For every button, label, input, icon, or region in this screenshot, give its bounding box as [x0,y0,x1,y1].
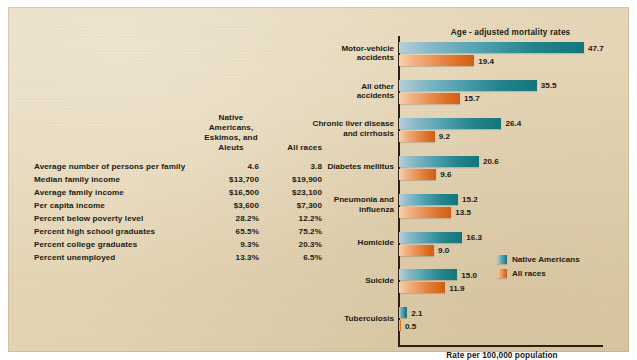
table-row: Per capita income$3,600$7,300 [34,200,322,213]
bar-value-label: 20.6 [483,156,499,167]
chart-bar-row: 13.5 [399,207,609,218]
legend-item-native-americans: Native Americans [497,255,580,264]
legend-swatch-native-americans [497,255,507,264]
chart-category-label: Suicide [304,276,394,286]
legend-label-native-americans: Native Americans [512,255,580,264]
bar-value-label: 13.5 [455,207,471,218]
bar-native-americans [399,307,407,318]
bar-value-label: 15.2 [462,194,478,205]
chart-category-label: Motor-vehicleaccidents [304,44,394,64]
chart-category-label: Pneumonia andinfluenza [304,195,394,215]
table-cell-native-americans: $13,700 [196,174,266,187]
chart-bar-row: 0.5 [399,320,609,331]
chart-category-label: Diabetes mellitus [304,162,394,172]
table-cell-native-americans: 65.5% [196,226,266,239]
table-cell-measure: Average number of persons per family [34,161,196,174]
table-row: Percent unemployed13.3%6.5% [34,252,322,265]
table-cell-native-americans: $16,500 [196,187,266,200]
figure-panel: Native Americans, Eskimos, and Aleuts Al… [8,7,629,352]
bar-value-label: 9.2 [439,131,450,142]
column-header-native-line2: Eskimos, and Aleuts [204,133,257,152]
chart-bar-row: 26.4 [399,118,609,129]
table-cell-measure: Percent unemployed [34,252,196,265]
table-cell-native-americans: 4.6 [196,161,266,174]
chart-bar-row: 9.2 [399,131,609,142]
bar-value-label: 19.4 [478,56,494,67]
table-cell-measure: Median family income [34,174,196,187]
stats-table-head: Native Americans, Eskimos, and Aleuts Al… [34,113,322,161]
mortality-bar-chart: Age - adjusted mortality rates Motor-veh… [304,23,626,353]
table-cell-native-americans: $3,600 [196,200,266,213]
chart-bar-row: 15.7 [399,93,609,104]
table-row: Average family income$16,500$23,100 [34,187,322,200]
table-cell-native-americans: 13.3% [196,252,266,265]
legend-label-all-races: All races [512,269,546,278]
bar-value-label: 15.7 [464,93,480,104]
chart-title: Age - adjusted mortality rates [408,28,613,37]
chart-bar-row: 11.9 [399,282,609,293]
bar-value-label: 15.0 [461,270,477,281]
bar-all-races [399,282,445,293]
bar-native-americans [399,118,501,129]
chart-category-label: Homicide [304,238,394,248]
bar-all-races [399,55,474,66]
chart-bar-row: 20.6 [399,156,609,167]
chart-bar-row: 9.6 [399,169,609,180]
x-axis-line [398,345,603,347]
table-cell-native-americans: 28.2% [196,213,266,226]
chart-bar-row: 15.2 [399,194,609,205]
socioeconomic-comparison-table: Native Americans, Eskimos, and Aleuts Al… [34,113,322,264]
bar-value-label: 11.9 [449,283,464,294]
chart-bar-row: 47.7 [399,42,609,53]
bar-native-americans [399,42,584,53]
table-cell-measure: Per capita income [34,200,196,213]
table-header-row: Native Americans, Eskimos, and Aleuts Al… [34,113,322,161]
table-cell-measure: Average family income [34,187,196,200]
stats-table-element: Native Americans, Eskimos, and Aleuts Al… [34,113,322,264]
x-axis-label: Rate per 100,000 population [398,351,606,360]
bar-value-label: 26.4 [505,118,521,129]
stats-table-body: Average number of persons per family4.63… [34,161,322,264]
bar-native-americans [399,80,537,91]
bar-native-americans [399,194,458,205]
bar-value-label: 16.3 [466,232,482,243]
bar-all-races [399,93,460,104]
chart-category-label: Tuberculosis [304,314,394,324]
column-header-measure [34,113,196,161]
legend-swatch-all-races [497,269,507,278]
table-cell-measure: Percent below poverty level [34,213,196,226]
bar-all-races [399,131,435,142]
bar-value-label: 2.1 [411,308,422,319]
table-cell-measure: Percent high school graduates [34,226,196,239]
bar-all-races [399,245,434,256]
table-row: Percent college graduates9.3%20.3% [34,239,322,252]
bar-all-races [399,207,451,218]
chart-category-label: All otheraccidents [304,82,394,102]
chart-legend: Native Americans All races [497,255,580,282]
chart-bar-row: 19.4 [399,55,609,66]
table-row: Median family income$13,700$19,900 [34,174,322,187]
chart-bar-row: 35.5 [399,80,609,91]
table-cell-measure: Percent college graduates [34,239,196,252]
table-row: Percent below poverty level28.2%12.2% [34,213,322,226]
chart-category-label: Chronic liver diseaseand cirrhosis [304,119,394,139]
column-header-native-americans: Native Americans, Eskimos, and Aleuts [196,113,266,161]
table-cell-native-americans: 9.3% [196,239,266,252]
chart-bar-row: 9.0 [399,245,609,256]
bar-value-label: 9.0 [438,245,449,256]
bar-value-label: 0.5 [405,321,416,332]
bar-value-label: 47.7 [588,43,604,54]
table-row: Percent high school graduates65.5%75.2% [34,226,322,239]
table-row: Average number of persons per family4.63… [34,161,322,174]
legend-item-all-races: All races [497,269,580,278]
bar-native-americans [399,156,479,167]
bar-value-label: 9.6 [440,169,451,180]
bar-native-americans [399,232,462,243]
column-header-native-line1: Native Americans, [209,113,254,132]
bar-native-americans [399,269,457,280]
bar-value-label: 35.5 [541,80,557,91]
bar-all-races [399,320,401,331]
chart-bar-row: 16.3 [399,232,609,243]
chart-bar-row: 2.1 [399,307,609,318]
bar-all-races [399,169,436,180]
